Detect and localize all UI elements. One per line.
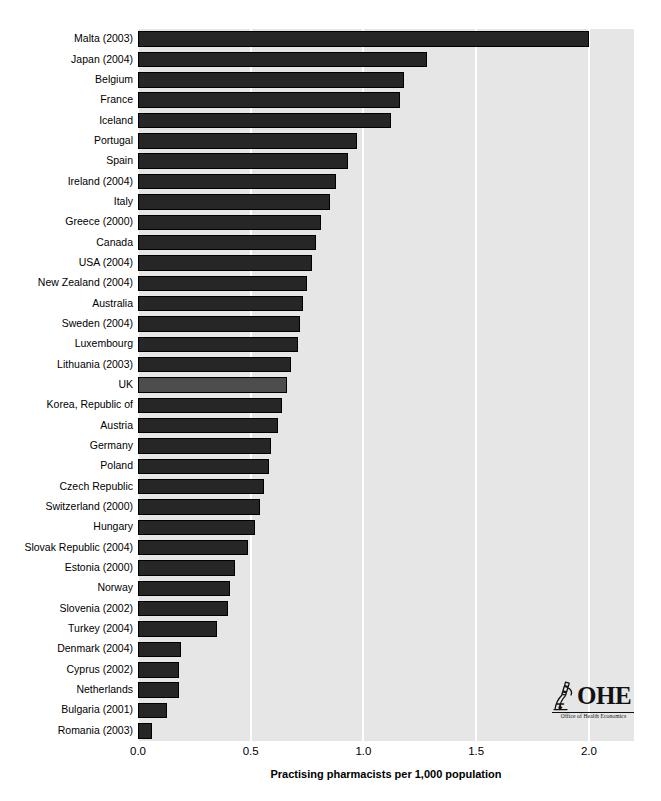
bar-row	[138, 621, 634, 636]
bar-norway	[138, 581, 230, 596]
category-label-cyprus-2002: Cyprus (2002)	[0, 664, 133, 675]
bar-uk	[138, 377, 287, 392]
bar-row	[138, 215, 634, 230]
category-label-lithuania-2003: Lithuania (2003)	[0, 359, 133, 370]
category-label-portugal: Portugal	[0, 135, 133, 146]
category-label-poland: Poland	[0, 460, 133, 471]
x-tick-label-0.5: 0.5	[243, 745, 259, 757]
bar-row	[138, 52, 634, 67]
category-label-australia: Australia	[0, 298, 133, 309]
bar-portugal	[138, 133, 357, 148]
category-label-usa-2004: USA (2004)	[0, 257, 133, 268]
bar-netherlands	[138, 682, 179, 697]
bar-new-zealand-2004	[138, 276, 307, 291]
category-label-sweden-2004: Sweden (2004)	[0, 318, 133, 329]
category-label-germany: Germany	[0, 440, 133, 451]
bar-slovak-republic-2004	[138, 540, 248, 555]
bar-row	[138, 418, 634, 433]
category-label-slovenia-2002: Slovenia (2002)	[0, 603, 133, 614]
bar-row	[138, 31, 634, 46]
category-label-italy: Italy	[0, 196, 133, 207]
bar-row	[138, 520, 634, 535]
x-axis-ticks: 0.00.51.01.52.0	[138, 745, 634, 761]
bar-canada	[138, 235, 316, 250]
bar-row	[138, 174, 634, 189]
bar-malta-2003	[138, 31, 589, 46]
category-label-netherlands: Netherlands	[0, 684, 133, 695]
bar-row	[138, 296, 634, 311]
bar-row	[138, 601, 634, 616]
bar-row	[138, 92, 634, 107]
bar-row	[138, 560, 634, 575]
category-label-uk: UK	[0, 379, 133, 390]
bar-luxembourg	[138, 337, 298, 352]
bar-germany	[138, 438, 271, 453]
category-label-belgium: Belgium	[0, 74, 133, 85]
category-label-luxembourg: Luxembourg	[0, 338, 133, 349]
bar-row	[138, 398, 634, 413]
bar-row	[138, 438, 634, 453]
ohe-logo: OHE Office of Health Economics	[551, 676, 635, 724]
category-label-bulgaria-2001: Bulgaria (2001)	[0, 704, 133, 715]
category-label-greece-2000: Greece (2000)	[0, 216, 133, 227]
bar-usa-2004	[138, 255, 312, 270]
category-label-ireland-2004: Ireland (2004)	[0, 176, 133, 187]
category-label-norway: Norway	[0, 582, 133, 593]
bar-iceland	[138, 113, 391, 128]
ohe-wordmark: OHE	[577, 682, 631, 710]
category-label-switzerland-2000: Switzerland (2000)	[0, 501, 133, 512]
bar-bulgaria-2001	[138, 703, 167, 718]
category-axis-labels: Malta (2003)Japan (2004)BelgiumFranceIce…	[0, 29, 133, 741]
bar-row	[138, 357, 634, 372]
category-label-estonia-2000: Estonia (2000)	[0, 562, 133, 573]
bar-switzerland-2000	[138, 499, 260, 514]
category-label-austria: Austria	[0, 420, 133, 431]
bar-row	[138, 235, 634, 250]
bar-romania-2003	[138, 723, 152, 738]
bar-row	[138, 337, 634, 352]
bar-japan-2004	[138, 52, 427, 67]
x-tick-label-0.0: 0.0	[130, 745, 146, 757]
category-label-hungary: Hungary	[0, 521, 133, 532]
category-label-slovak-republic-2004: Slovak Republic (2004)	[0, 542, 133, 553]
bar-korea-republic-of	[138, 398, 282, 413]
bar-series	[138, 29, 634, 741]
bar-denmark-2004	[138, 642, 181, 657]
bar-row	[138, 581, 634, 596]
pharmacist-density-bar-chart: Malta (2003)Japan (2004)BelgiumFranceIce…	[0, 0, 661, 801]
bar-row	[138, 459, 634, 474]
bar-row	[138, 540, 634, 555]
bar-poland	[138, 459, 269, 474]
bar-belgium	[138, 72, 404, 87]
bar-australia	[138, 296, 303, 311]
category-label-canada: Canada	[0, 237, 133, 248]
bar-row	[138, 377, 634, 392]
category-label-spain: Spain	[0, 155, 133, 166]
x-tick-label-1.0: 1.0	[355, 745, 371, 757]
bar-spain	[138, 153, 348, 168]
bar-row	[138, 255, 634, 270]
bar-row	[138, 72, 634, 87]
bar-row	[138, 723, 634, 738]
bar-row	[138, 113, 634, 128]
ohe-tagline: Office of Health Economics	[552, 713, 635, 719]
bar-france	[138, 92, 400, 107]
bar-czech-republic	[138, 479, 264, 494]
bar-row	[138, 276, 634, 291]
category-label-malta-2003: Malta (2003)	[0, 33, 133, 44]
bar-slovenia-2002	[138, 601, 228, 616]
category-label-japan-2004: Japan (2004)	[0, 54, 133, 65]
plot-area	[138, 29, 634, 741]
bar-row	[138, 479, 634, 494]
bar-row	[138, 642, 634, 657]
bar-greece-2000	[138, 215, 321, 230]
bar-row	[138, 194, 634, 209]
category-label-france: France	[0, 94, 133, 105]
category-label-romania-2003: Romania (2003)	[0, 725, 133, 736]
x-axis-title: Practising pharmacists per 1,000 populat…	[138, 768, 634, 780]
bar-row	[138, 153, 634, 168]
bar-sweden-2004	[138, 316, 300, 331]
bar-hungary	[138, 520, 255, 535]
bar-lithuania-2003	[138, 357, 291, 372]
bar-row	[138, 316, 634, 331]
